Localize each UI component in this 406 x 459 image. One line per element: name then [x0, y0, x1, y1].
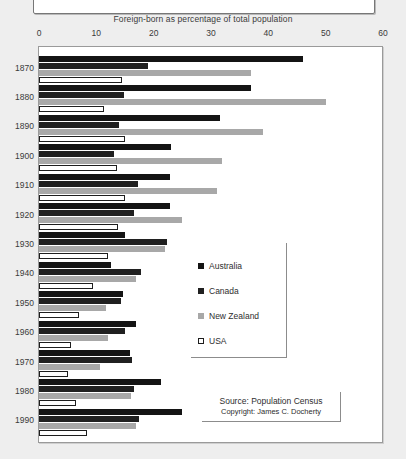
- x-tick-label-40: 40: [264, 28, 273, 38]
- y-axis-label-1890: 1890: [15, 121, 34, 131]
- y-axis-label-1980: 1980: [15, 386, 34, 396]
- copyright-text: Copyright: James C. Docherty: [208, 407, 334, 416]
- bar-usa-1940: [39, 283, 93, 289]
- y-axis-year-labels: 1870188018901900191019201930194019501960…: [0, 46, 34, 443]
- x-tick-label-30: 30: [206, 28, 215, 38]
- bar-usa-1950: [39, 312, 79, 318]
- y-axis-label-1920: 1920: [15, 210, 34, 220]
- legend-label-aus: Australia: [209, 261, 242, 271]
- x-tick-label-50: 50: [321, 28, 330, 38]
- bar-can-1970: [39, 357, 132, 363]
- legend-label-nzl: New Zealand: [209, 311, 259, 321]
- x-tick-label-0: 0: [37, 28, 42, 38]
- bar-aus-1920: [39, 203, 170, 209]
- y-axis-label-1910: 1910: [15, 180, 34, 190]
- y-axis-label-1880: 1880: [15, 92, 34, 102]
- bar-nzl-1910: [39, 188, 217, 194]
- bar-nzl-1970: [39, 364, 100, 370]
- bar-nzl-1990: [39, 423, 136, 429]
- top-clipped-panel: [33, 0, 375, 14]
- bar-can-1880: [39, 92, 124, 98]
- bar-usa-1920: [39, 224, 118, 230]
- bar-nzl-1920: [39, 217, 182, 223]
- bar-usa-1970: [39, 371, 68, 377]
- bar-nzl-1870: [39, 70, 251, 76]
- y-axis-label-1870: 1870: [15, 63, 34, 73]
- bar-usa-1960: [39, 342, 71, 348]
- legend: AustraliaCanadaNew ZealandUSA: [191, 243, 287, 358]
- bar-aus-1940: [39, 262, 111, 268]
- y-axis-label-1940: 1940: [15, 268, 34, 278]
- bar-usa-1870: [39, 77, 122, 83]
- bar-nzl-1890: [39, 129, 263, 135]
- y-axis-label-1900: 1900: [15, 151, 34, 161]
- bar-can-1940: [39, 269, 141, 275]
- bar-usa-1980: [39, 400, 76, 406]
- bar-nzl-1980: [39, 393, 131, 399]
- bar-can-1950: [39, 298, 121, 304]
- source-box: Source: Population Census Copyright: Jam…: [202, 392, 341, 422]
- y-axis-label-1950: 1950: [15, 298, 34, 308]
- bar-nzl-1940: [39, 276, 136, 282]
- x-tick-label-10: 10: [92, 28, 101, 38]
- bar-aus-1950: [39, 291, 123, 297]
- bar-can-1920: [39, 210, 134, 216]
- bar-usa-1990: [39, 430, 87, 436]
- legend-swatch-can-icon: [198, 288, 204, 294]
- legend-item-usa: USA: [198, 336, 226, 346]
- bar-usa-1890: [39, 136, 125, 142]
- bar-aus-1990: [39, 409, 182, 415]
- bar-usa-1930: [39, 253, 108, 259]
- bar-can-1900: [39, 151, 114, 157]
- bar-nzl-1880: [39, 99, 326, 105]
- bar-can-1890: [39, 122, 119, 128]
- legend-swatch-usa-icon: [198, 338, 204, 344]
- x-tick-label-60: 60: [378, 28, 387, 38]
- bar-usa-1880: [39, 106, 104, 112]
- x-tick-label-20: 20: [149, 28, 158, 38]
- y-axis-label-1960: 1960: [15, 327, 34, 337]
- bar-aus-1980: [39, 379, 161, 385]
- bar-can-1960: [39, 328, 125, 334]
- legend-swatch-nzl-icon: [198, 313, 204, 319]
- legend-item-aus: Australia: [198, 261, 242, 271]
- legend-item-nzl: New Zealand: [198, 311, 259, 321]
- y-axis-label-1930: 1930: [15, 239, 34, 249]
- source-text: Source: Population Census: [208, 396, 334, 406]
- axis-title: Foreign-born as percentage of total popu…: [0, 14, 406, 24]
- y-axis-label-1990: 1990: [15, 415, 34, 425]
- bar-can-1930: [39, 239, 167, 245]
- x-axis-tick-row: 0102030405060: [0, 28, 406, 41]
- bar-aus-1970: [39, 350, 130, 356]
- bar-nzl-1900: [39, 158, 222, 164]
- legend-swatch-aus-icon: [198, 263, 204, 269]
- bar-can-1910: [39, 181, 138, 187]
- bar-aus-1890: [39, 115, 220, 121]
- legend-label-can: Canada: [209, 286, 239, 296]
- bar-nzl-1950: [39, 305, 106, 311]
- y-axis-label-1970: 1970: [15, 357, 34, 367]
- bar-can-1980: [39, 386, 134, 392]
- bar-aus-1900: [39, 144, 171, 150]
- legend-item-can: Canada: [198, 286, 239, 296]
- bar-aus-1910: [39, 174, 170, 180]
- bar-usa-1910: [39, 195, 125, 201]
- bar-usa-1900: [39, 165, 117, 171]
- bar-aus-1880: [39, 85, 251, 91]
- bar-aus-1960: [39, 321, 136, 327]
- bar-aus-1870: [39, 56, 303, 62]
- bar-can-1870: [39, 63, 148, 69]
- bar-nzl-1930: [39, 246, 165, 252]
- bar-aus-1930: [39, 232, 125, 238]
- legend-label-usa: USA: [209, 336, 226, 346]
- bar-nzl-1960: [39, 335, 108, 341]
- bar-can-1990: [39, 416, 139, 422]
